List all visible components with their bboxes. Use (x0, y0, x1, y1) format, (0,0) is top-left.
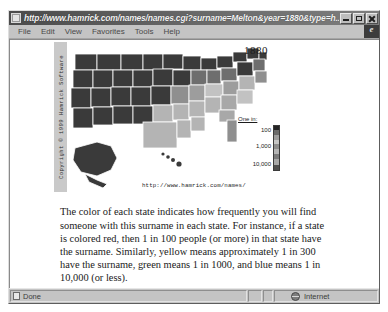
surname-distribution-map: Copyright © 1999 Hamrick Software (54, 42, 282, 192)
status-message-cell: Done (10, 290, 247, 302)
menu-item-view[interactable]: View (60, 26, 87, 38)
globe-icon (291, 292, 300, 301)
legend-tick-10000: 10,000 (253, 161, 271, 167)
status-message: Done (23, 292, 41, 301)
ie-logo-icon[interactable] (364, 25, 379, 38)
legend-tick-1000: 1,000 (256, 143, 271, 149)
screenshot-root: http://www.hamrick.com/names/names.cgi?s… (0, 0, 388, 312)
menu-item-file[interactable]: File (13, 26, 36, 38)
map-source-url: http://www.hamrick.com/names/ (142, 182, 246, 189)
close-button[interactable] (366, 13, 378, 24)
security-zone-cell[interactable]: Internet (274, 290, 378, 302)
menu-bar: File Edit View Favorites Tools Help (9, 25, 379, 39)
map-description-text: The color of each state indicates how fr… (60, 205, 328, 284)
page-content: Copyright © 1999 Hamrick Software (10, 40, 379, 288)
browser-viewport[interactable]: Copyright © 1999 Hamrick Software (9, 39, 379, 288)
window-title: http://www.hamrick.com/names/names.cgi?s… (24, 13, 339, 23)
status-bar: Done Internet (9, 288, 379, 303)
menu-item-edit[interactable]: Edit (36, 26, 60, 38)
document-icon (13, 292, 20, 300)
legend-color-scale (273, 125, 280, 171)
menu-item-favorites[interactable]: Favorites (87, 26, 130, 38)
security-zone-label: Internet (304, 292, 329, 301)
copyright-text: Copyright © 1999 Hamrick Software (57, 55, 64, 179)
menu-item-tools[interactable]: Tools (130, 26, 159, 38)
status-spacer-1 (248, 290, 262, 302)
legend-tick-100: 100 (261, 127, 271, 133)
browser-window: http://www.hamrick.com/names/names.cgi?s… (8, 10, 380, 304)
menu-item-help[interactable]: Help (158, 26, 184, 38)
restore-button[interactable] (353, 13, 365, 24)
status-spacer-2 (263, 290, 273, 302)
copyright-strip: Copyright © 1999 Hamrick Software (54, 42, 67, 192)
title-bar[interactable]: http://www.hamrick.com/names/names.cgi?s… (9, 11, 379, 25)
map-year-label: 1880 (244, 44, 268, 56)
ie-document-icon (11, 13, 21, 23)
legend-title: One in: (238, 116, 257, 122)
minimize-button[interactable] (340, 13, 352, 24)
map-legend: One in: 100 1,000 10,000 (238, 116, 280, 174)
